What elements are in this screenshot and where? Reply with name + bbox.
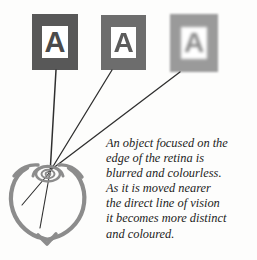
sight-ray-medium-icon <box>49 70 112 173</box>
caption-line-2: edge of the retina is <box>106 151 252 166</box>
caption-line-7: and coloured. <box>106 227 252 242</box>
caption-text: An object focused on the edge of the ret… <box>106 136 252 242</box>
eye-focus-diagram: A A A <box>0 0 257 260</box>
caption-line-4: As it is moved nearer <box>106 181 252 196</box>
sight-ray-sharp-icon <box>50 70 56 174</box>
caption-line-6: it becomes more distinct <box>106 211 252 226</box>
caption-line-5: the direct line of vision <box>106 196 252 211</box>
caption-line-3: blurred and colourless. <box>106 166 252 181</box>
caption-line-1: An object focused on the <box>106 136 252 151</box>
